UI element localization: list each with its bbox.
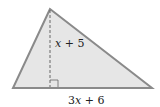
height-label: x + 5 (55, 37, 84, 50)
triangle-diagram: x + 5 3x + 6 (0, 0, 160, 107)
base-label: 3x + 6 (68, 94, 104, 107)
